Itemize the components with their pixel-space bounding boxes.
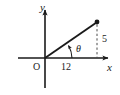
diagram-canvas	[0, 0, 120, 95]
y-axis-label: y	[40, 2, 45, 13]
coordinate-diagram: y x O 12 5 θ	[0, 0, 120, 95]
angle-arc	[69, 46, 73, 58]
terminal-point-dot	[95, 20, 100, 25]
x-value-label: 12	[61, 62, 71, 72]
origin-label: O	[33, 62, 40, 72]
x-axis-label: x	[107, 62, 112, 73]
angle-theta-label: θ	[76, 44, 81, 54]
y-value-label: 5	[102, 34, 107, 44]
